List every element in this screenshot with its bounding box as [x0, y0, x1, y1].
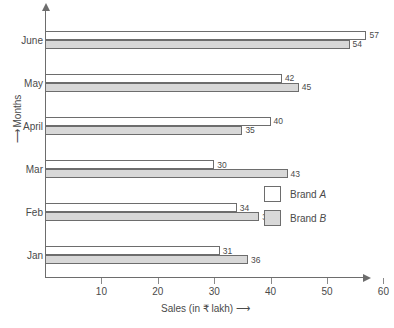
bar-brand-b-april [45, 126, 242, 135]
bar-brand-b-mar [45, 169, 288, 178]
y-axis-title-text: Months [12, 95, 23, 128]
x-axis-tick [158, 278, 159, 284]
legend-label-prefix: Brand [290, 213, 319, 224]
bar-brand-a-may [45, 74, 282, 83]
bar-brand-a-jan [45, 246, 220, 255]
legend-item-brand-a[interactable]: Brand A [264, 186, 364, 202]
legend-swatch-icon [264, 210, 281, 226]
x-axis-tick [383, 278, 384, 284]
bar-brand-a-mar [45, 160, 214, 169]
x-axis-tick-label: 30 [199, 286, 229, 297]
bar-brand-a-feb [45, 203, 237, 212]
bar-value-label: 57 [369, 30, 378, 40]
y-axis-category-label: Jan [2, 250, 43, 261]
x-axis-tick-label: 10 [86, 286, 116, 297]
bar-value-label: 54 [353, 39, 362, 49]
legend-item-brand-b[interactable]: Brand B [264, 210, 364, 226]
bar-brand-a-june [45, 31, 366, 40]
x-axis-title-text: Sales (in ₹ lakh) [161, 303, 233, 314]
chart-legend: Brand ABrand B [264, 186, 364, 234]
x-axis-arrowhead [363, 274, 371, 282]
x-axis-line [45, 277, 365, 278]
bar-value-label: 30 [217, 160, 226, 170]
bar-value-label: 35 [245, 125, 254, 135]
bar-value-label: 43 [291, 169, 300, 179]
bar-value-label: 36 [251, 255, 260, 265]
bar-value-label: 31 [223, 246, 232, 256]
x-axis-tick-label: 50 [312, 286, 342, 297]
bar-brand-a-april [45, 117, 271, 126]
x-axis-tick [271, 278, 272, 284]
y-axis-line [45, 10, 46, 278]
bar-value-label: 40 [274, 116, 283, 126]
bar-value-label: 34 [240, 203, 249, 213]
legend-item-label: Brand B [290, 213, 326, 224]
y-axis-title-arrow: ⟶ [12, 130, 23, 143]
bar-value-label: 45 [302, 82, 311, 92]
x-axis-tick [214, 278, 215, 284]
legend-item-label: Brand A [290, 189, 326, 200]
y-axis-category-label: Feb [2, 207, 43, 218]
x-axis-tick [101, 278, 102, 284]
y-axis-title: ⟶ Months [12, 69, 26, 169]
bar-brand-b-jan [45, 255, 248, 264]
legend-label-prefix: Brand [290, 189, 319, 200]
x-axis-tick-label: 20 [143, 286, 173, 297]
x-axis-tick-label: 40 [256, 286, 286, 297]
legend-label-emphasis: A [319, 189, 326, 200]
y-axis-category-label: June [2, 34, 43, 45]
bar-brand-b-feb [45, 212, 259, 221]
bar-value-label: 42 [285, 73, 294, 83]
x-axis-title-arrow: ⟶ [236, 303, 249, 314]
legend-swatch-icon [264, 186, 281, 202]
legend-label-emphasis: B [319, 213, 326, 224]
x-axis-tick-label: 60 [368, 286, 394, 297]
bar-brand-b-june [45, 40, 350, 49]
bar-brand-b-may [45, 83, 299, 92]
x-axis-title: Sales (in ₹ lakh) ⟶ [45, 303, 365, 314]
x-axis-tick [327, 278, 328, 284]
